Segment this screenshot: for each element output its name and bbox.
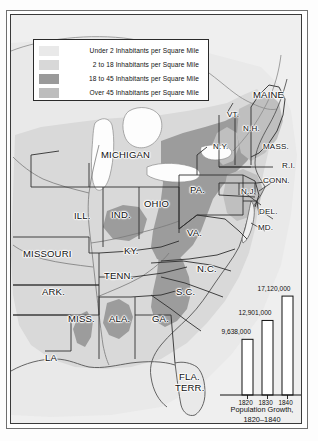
legend-row-3: Over 45 Inhabitants per Square Mile xyxy=(39,86,202,99)
legend-row-1: 2 to 18 Inhabitants per Square Mile xyxy=(39,58,202,71)
chart-title: Population Growth, xyxy=(216,405,302,415)
legend-label-3: Over 45 Inhabitants per Square Mile xyxy=(59,89,202,96)
chart-bar-1840 xyxy=(282,296,293,395)
legend-swatch-3 xyxy=(39,88,59,98)
legend-label-1: 2 to 18 Inhabitants per Square Mile xyxy=(59,61,202,68)
chart-value-label-1840: 17,120,000 xyxy=(258,285,291,292)
map-frame: MAINEVT.N.H.MASS.R.I.CONN.N.Y.PA.N.J.DEL… xyxy=(10,14,302,424)
chart-plot xyxy=(216,277,302,405)
chart-bar-1820 xyxy=(242,339,253,395)
legend-label-2: 18 to 45 Inhabitants per Square Mile xyxy=(59,75,202,82)
chart-bar-1830 xyxy=(262,320,273,395)
map-figure: MAINEVT.N.H.MASS.R.I.CONN.N.Y.PA.N.J.DEL… xyxy=(0,0,318,441)
chart-subtitle: 1820–1840 xyxy=(216,415,302,424)
legend-swatch-1 xyxy=(39,60,59,70)
chart-value-label-1820: 9,638,000 xyxy=(222,328,251,335)
lake-ontario xyxy=(201,145,232,160)
population-growth-chart: 9,638,00012,901,00017,120,000 1820183018… xyxy=(216,277,302,424)
legend-swatch-2 xyxy=(39,74,59,84)
density-legend: Under 2 Inhabitants per Square Mile2 to … xyxy=(33,39,209,101)
chart-caption: Population Growth, 1820–1840 xyxy=(216,405,302,424)
legend-row-0: Under 2 Inhabitants per Square Mile xyxy=(39,44,202,57)
legend-label-0: Under 2 Inhabitants per Square Mile xyxy=(59,47,202,54)
chart-value-label-1830: 12,901,000 xyxy=(239,309,272,316)
legend-row-2: 18 to 45 Inhabitants per Square Mile xyxy=(39,72,202,85)
legend-swatch-0 xyxy=(39,46,59,56)
